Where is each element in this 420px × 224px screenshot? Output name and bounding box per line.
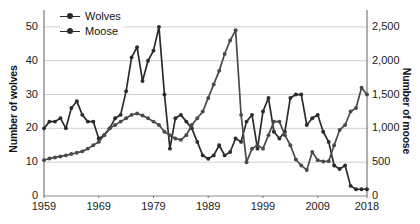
data-point xyxy=(184,133,188,137)
data-point xyxy=(201,110,205,114)
data-point xyxy=(316,158,320,162)
data-point xyxy=(168,133,172,137)
x-tick-1969: 1969 xyxy=(73,200,125,212)
data-point xyxy=(48,120,52,124)
y-tick-left-10: 10 xyxy=(4,155,38,167)
data-point xyxy=(206,157,210,161)
data-point xyxy=(113,123,117,127)
data-point xyxy=(245,120,249,124)
data-point xyxy=(113,116,117,120)
data-point xyxy=(349,110,353,114)
data-point xyxy=(234,137,238,141)
data-point xyxy=(80,113,84,117)
data-point xyxy=(256,147,260,151)
y-tick-left-20: 20 xyxy=(4,121,38,133)
data-point xyxy=(124,89,128,93)
legend-marker-moose xyxy=(60,26,80,36)
data-point xyxy=(119,113,123,117)
data-point xyxy=(135,45,139,49)
data-point xyxy=(53,120,57,124)
data-point xyxy=(234,28,238,32)
data-point xyxy=(124,116,128,120)
data-point xyxy=(360,86,364,90)
data-point xyxy=(75,99,79,103)
legend-item-moose[interactable]: Moose xyxy=(60,25,124,37)
data-point xyxy=(217,143,221,147)
data-point xyxy=(212,82,216,86)
data-point xyxy=(354,106,358,110)
data-point xyxy=(206,96,210,100)
data-point xyxy=(179,113,183,117)
data-point xyxy=(58,116,62,120)
data-point xyxy=(338,128,342,132)
data-point xyxy=(48,157,52,161)
data-point xyxy=(130,55,134,59)
data-point xyxy=(321,160,325,164)
data-point xyxy=(277,120,281,124)
data-point xyxy=(365,93,369,97)
data-point xyxy=(217,69,221,73)
data-point xyxy=(288,143,292,147)
y-tick-left-30: 30 xyxy=(4,88,38,100)
data-point xyxy=(75,151,79,155)
data-point xyxy=(332,143,336,147)
y-tick-right-1500: 1,500 xyxy=(372,88,416,100)
data-point xyxy=(80,149,84,153)
data-point xyxy=(272,120,276,124)
legend-label-wolves: Wolves xyxy=(85,10,121,22)
chart-legend: Wolves Moose xyxy=(60,10,124,37)
data-point xyxy=(141,79,145,83)
data-point xyxy=(294,158,298,162)
data-point xyxy=(327,140,331,144)
data-point xyxy=(69,106,73,110)
data-point xyxy=(91,120,95,124)
data-point xyxy=(360,187,364,191)
data-point xyxy=(223,153,227,157)
data-point xyxy=(239,113,243,117)
data-point xyxy=(277,137,281,141)
data-point xyxy=(168,147,172,151)
data-point xyxy=(321,130,325,134)
data-point xyxy=(162,93,166,97)
data-point xyxy=(349,184,353,188)
data-point xyxy=(162,130,166,134)
y-tick-right-2000: 2,000 xyxy=(372,54,416,66)
data-point xyxy=(239,140,243,144)
data-point xyxy=(97,140,101,144)
data-point xyxy=(42,158,46,162)
y-tick-right-2500: 2,500 xyxy=(372,20,416,32)
legend-item-wolves[interactable]: Wolves xyxy=(60,10,124,22)
data-point xyxy=(299,93,303,97)
data-point xyxy=(69,152,73,156)
data-point xyxy=(212,153,216,157)
data-point xyxy=(146,59,150,63)
data-point xyxy=(310,116,314,120)
data-point xyxy=(86,120,90,124)
data-point xyxy=(130,113,134,117)
data-point xyxy=(228,38,232,42)
data-point xyxy=(173,137,177,141)
data-point xyxy=(316,113,320,117)
data-point xyxy=(102,133,106,137)
data-point xyxy=(190,123,194,127)
data-point xyxy=(283,133,287,137)
data-point xyxy=(228,150,232,154)
data-point xyxy=(152,49,156,53)
data-point xyxy=(119,120,123,124)
data-point xyxy=(305,168,309,172)
data-point xyxy=(135,112,139,116)
wolves-moose-population-chart: Number of wolves Number of moose 0102030… xyxy=(0,0,420,224)
y-tick-left-40: 40 xyxy=(4,54,38,66)
data-point xyxy=(305,123,309,127)
data-point xyxy=(250,113,254,117)
data-point xyxy=(332,164,336,168)
y-tick-right-500: 500 xyxy=(372,155,416,167)
data-point xyxy=(343,123,347,127)
data-point xyxy=(86,147,90,151)
data-point xyxy=(157,123,161,127)
data-point xyxy=(267,96,271,100)
series-wolves xyxy=(42,25,369,191)
data-point xyxy=(58,154,62,158)
x-tick-1989: 1989 xyxy=(182,200,234,212)
data-point xyxy=(173,116,177,120)
